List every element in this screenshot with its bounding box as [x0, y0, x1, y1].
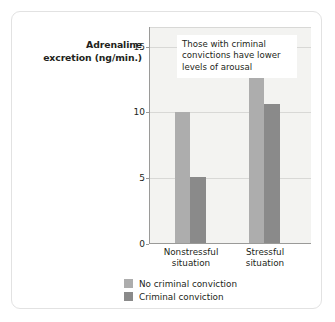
- x-label-stressful-line-2: situation: [225, 258, 305, 269]
- legend-swatch-criminal-conviction: [124, 292, 133, 301]
- annotation-line-2: convictions have lower: [182, 50, 292, 61]
- gridline-5: [149, 178, 311, 179]
- bar-nonstressful-no-criminal-conviction: [175, 112, 190, 244]
- legend-label-no-criminal-conviction: No criminal conviction: [139, 279, 237, 289]
- x-axis-line: [149, 243, 311, 244]
- plot-area: Those with criminal convictions have low…: [149, 27, 311, 244]
- y-tick-label-0: 0: [125, 239, 145, 249]
- y-tick-label-15: 15: [125, 42, 145, 52]
- figure-card: Adrenaline excretion (ng/min.) 0 5 10 15…: [11, 11, 322, 309]
- gridline-10: [149, 112, 311, 113]
- x-label-stressful: Stressful situation: [225, 247, 305, 269]
- x-label-nonstressful-line-2: situation: [151, 258, 231, 269]
- y-tick-mark-0: [146, 244, 149, 245]
- chart-annotation: Those with criminal convictions have low…: [177, 35, 297, 78]
- x-label-nonstressful-line-1: Nonstressful: [151, 247, 231, 258]
- annotation-line-3: levels of arousal: [182, 62, 292, 73]
- plot-top-border: [149, 27, 311, 28]
- legend-swatch-no-criminal-conviction: [124, 279, 133, 288]
- y-axis-line: [149, 27, 150, 244]
- x-label-nonstressful: Nonstressful situation: [151, 247, 231, 269]
- annotation-line-1: Those with criminal: [182, 39, 292, 50]
- y-tick-label-10: 10: [125, 107, 145, 117]
- bar-nonstressful-criminal-conviction: [190, 177, 206, 243]
- x-label-stressful-line-1: Stressful: [225, 247, 305, 258]
- legend-item-criminal-conviction: Criminal conviction: [124, 290, 314, 303]
- chart-legend: No criminal conviction Criminal convicti…: [124, 277, 314, 303]
- x-axis-labels: Nonstressful situation Stressful situati…: [149, 247, 311, 273]
- legend-item-no-criminal-conviction: No criminal conviction: [124, 277, 314, 290]
- legend-label-criminal-conviction: Criminal conviction: [139, 292, 224, 302]
- bar-stressful-criminal-conviction: [264, 104, 280, 243]
- y-tick-label-5: 5: [125, 173, 145, 183]
- y-axis-tick-labels: 0 5 10 15: [123, 27, 145, 244]
